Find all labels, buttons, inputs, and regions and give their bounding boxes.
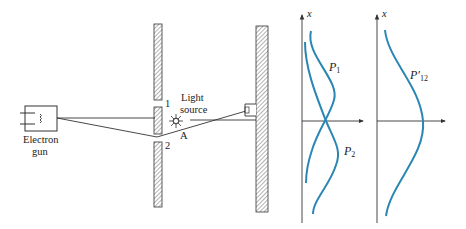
- graph-right: [377, 15, 445, 223]
- light-source-label-line2: source: [180, 104, 207, 115]
- graph-left: [302, 15, 363, 223]
- filament-icon: [40, 114, 42, 123]
- curve-p12: [385, 30, 423, 216]
- graph-left-axis-label: x: [307, 8, 312, 19]
- diagram-canvas: [0, 0, 466, 229]
- electron-gun: [20, 106, 57, 131]
- slit-wall: [154, 24, 162, 207]
- slit-1-label: 1: [165, 98, 170, 109]
- electron-gun-label-line1: Electron: [23, 134, 59, 145]
- p2-label: P2: [344, 146, 355, 160]
- p1-label: P1: [329, 62, 340, 76]
- p12-label: P′12: [410, 70, 428, 84]
- light-source-icon: [169, 114, 183, 128]
- electron-gun-label-line2: gun: [32, 146, 48, 157]
- slit-2-label: 2: [165, 140, 170, 151]
- point-a-label: A: [180, 130, 188, 141]
- graph-right-axis-label: x: [382, 8, 387, 19]
- light-source-label-line1: Light: [181, 92, 204, 103]
- detector-icon: [245, 104, 256, 116]
- detector-screen: [245, 26, 268, 212]
